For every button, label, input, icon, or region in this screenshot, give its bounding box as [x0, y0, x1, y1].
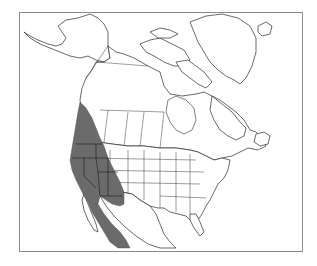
arctic-island-small [150, 28, 178, 38]
iceland [258, 22, 272, 36]
florida [190, 214, 204, 236]
alaska [24, 14, 110, 62]
north-america-range-map [0, 0, 317, 266]
baffin-island [176, 60, 212, 88]
newfoundland [254, 132, 270, 146]
